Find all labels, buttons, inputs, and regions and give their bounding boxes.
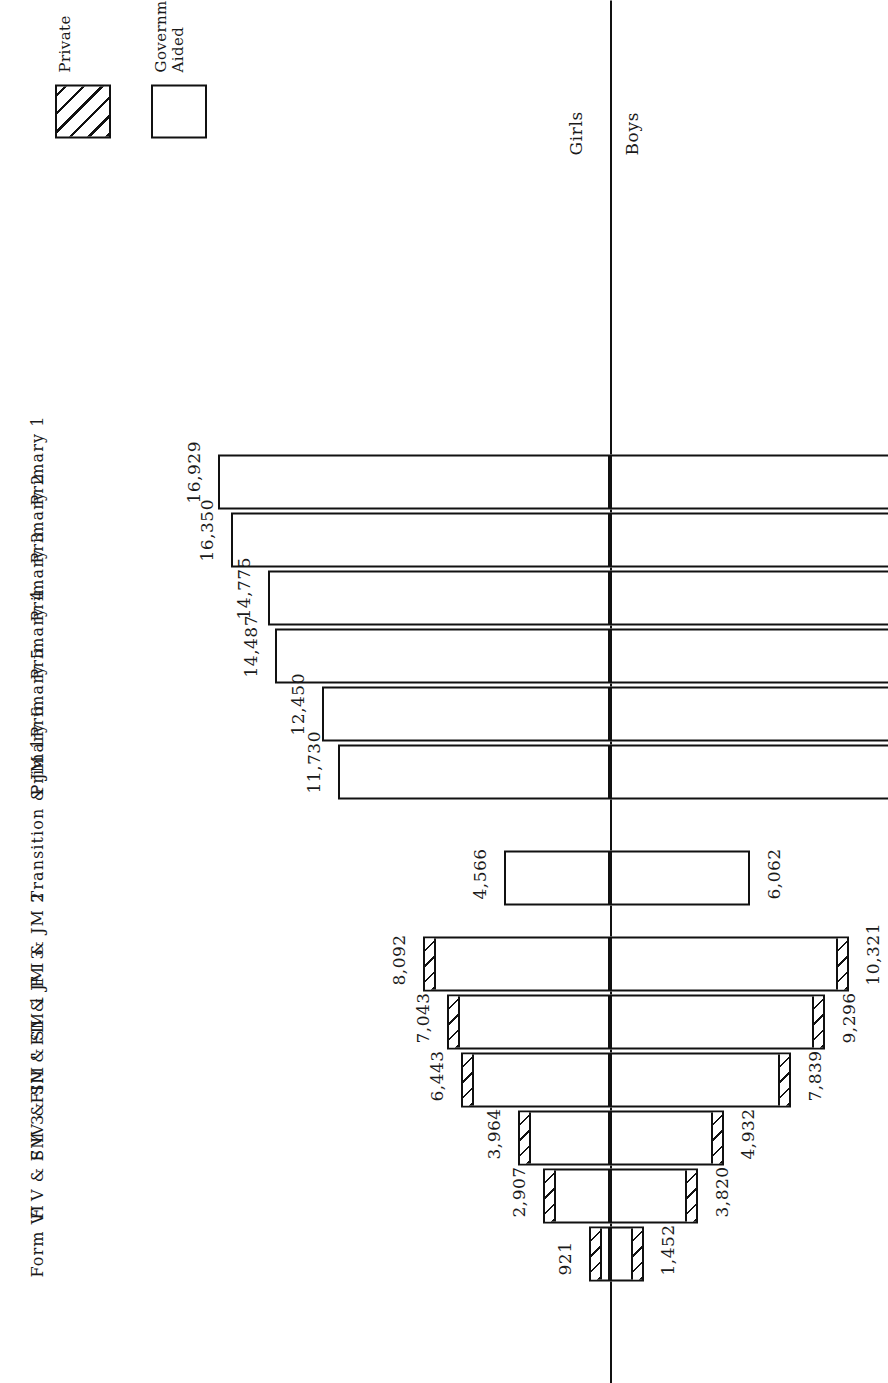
bar-group (0, 1168, 888, 1223)
axis-label-boys: Boys (622, 112, 642, 155)
bar-boys (610, 850, 750, 905)
bar-group (0, 570, 888, 625)
bar-boys (610, 1052, 791, 1107)
value-label-girls: 14,487 (241, 615, 261, 677)
value-label-girls: 6,443 (427, 1050, 447, 1101)
bar-boys (610, 1110, 724, 1165)
bar-girls (589, 1226, 610, 1281)
bar-girls (543, 1168, 610, 1223)
value-label-boys: 10,321 (863, 923, 883, 985)
bar-girls (322, 686, 610, 741)
bar-group (0, 744, 888, 799)
value-label-boys: 6,062 (764, 848, 784, 899)
private-segment (591, 1228, 602, 1279)
bar-boys (610, 994, 825, 1049)
bar-boys (610, 936, 849, 991)
private-segment (463, 1054, 474, 1105)
bar-group (0, 936, 888, 991)
bar-boys (610, 454, 888, 509)
bar-boys (610, 686, 888, 741)
bar-girls (518, 1110, 610, 1165)
value-label-girls: 7,043 (413, 992, 433, 1043)
value-label-girls: 8,092 (389, 934, 409, 985)
value-label-boys: 3,820 (712, 1166, 732, 1217)
private-segment (711, 1112, 722, 1163)
private-segment (836, 938, 847, 989)
private-segment (520, 1112, 531, 1163)
bar-group (0, 1226, 888, 1281)
private-segment (685, 1170, 696, 1221)
bar-girls (218, 454, 610, 509)
value-label-girls: 2,907 (509, 1166, 529, 1217)
bar-girls (447, 994, 610, 1049)
bar-boys (610, 1168, 698, 1223)
value-label-girls: 16,929 (184, 441, 204, 503)
bar-girls (338, 744, 610, 799)
bar-girls (231, 512, 610, 567)
axis-label-girls: Girls (566, 111, 586, 155)
value-label-boys: 9,296 (839, 992, 859, 1043)
bar-girls (461, 1052, 610, 1107)
private-segment (778, 1054, 789, 1105)
value-label-girls: 11,730 (304, 731, 324, 793)
value-label-girls: 16,350 (197, 499, 217, 561)
bar-boys (610, 512, 888, 567)
value-label-girls: 3,964 (484, 1108, 504, 1159)
value-label-girls: 921 (555, 1241, 575, 1275)
private-segment (631, 1228, 642, 1279)
value-label-boys: 4,932 (738, 1108, 758, 1159)
bar-boys (610, 570, 888, 625)
value-label-boys: 1,452 (658, 1224, 678, 1275)
bar-group (0, 850, 888, 905)
bar-girls (504, 850, 610, 905)
value-label-girls: 14,775 (234, 557, 254, 619)
bar-group (0, 454, 888, 509)
value-label-girls: 12,450 (288, 673, 308, 735)
private-segment (449, 996, 460, 1047)
bar-boys (610, 1226, 644, 1281)
private-segment (812, 996, 823, 1047)
bar-group (0, 686, 888, 741)
category-label: F I & JM 2 (28, 891, 47, 987)
bar-boys (610, 744, 888, 799)
bar-group (0, 512, 888, 567)
bar-girls (275, 628, 610, 683)
bar-girls (268, 570, 610, 625)
chart-plot-area: Boys Girls 9211,452Form VI2,9073,820F V … (0, 0, 888, 1383)
bar-boys (610, 628, 888, 683)
value-label-boys: 7,839 (805, 1050, 825, 1101)
value-label-girls: 4,566 (470, 848, 490, 899)
category-label: Primary 1 (28, 415, 47, 505)
private-segment (545, 1170, 556, 1221)
bar-group (0, 628, 888, 683)
bar-group (0, 994, 888, 1049)
chart-stage: Private Government & Aided Boys Girls 92… (0, 0, 888, 1383)
bar-girls (423, 936, 610, 991)
private-segment (425, 938, 436, 989)
